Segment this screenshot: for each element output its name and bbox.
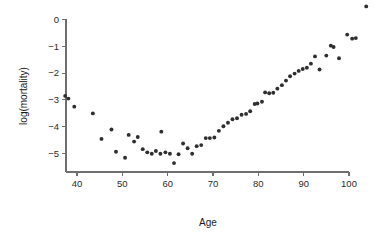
data-point (313, 54, 317, 58)
data-point (163, 150, 167, 154)
data-point (255, 101, 259, 105)
data-point (132, 140, 136, 144)
data-point (364, 4, 368, 8)
y-tick-label: −5 (48, 148, 59, 159)
data-point (275, 87, 279, 91)
y-tick-label: −3 (48, 94, 59, 105)
data-point (158, 152, 162, 156)
data-point (190, 152, 194, 156)
data-points (63, 4, 368, 165)
plot-canvas: 0−1−2−3−4−5 405060708090100 Age log(mort… (0, 0, 380, 239)
data-point (248, 109, 252, 113)
data-point (263, 90, 267, 94)
data-point (280, 83, 284, 87)
scatter-plot-figure: 0−1−2−3−4−5 405060708090100 Age log(mort… (0, 0, 380, 239)
data-point (177, 152, 181, 156)
y-tick-label: 0 (54, 14, 59, 25)
data-point (354, 36, 358, 40)
data-point (226, 121, 230, 125)
x-tick-label: 80 (253, 178, 264, 189)
data-point (100, 137, 104, 141)
data-point (301, 67, 305, 71)
data-point (297, 69, 301, 73)
data-point (350, 37, 354, 41)
data-point (305, 66, 309, 70)
data-point (288, 74, 292, 78)
data-point (231, 117, 235, 121)
x-axis: 405060708090100 (66, 172, 357, 189)
data-point (318, 68, 322, 72)
y-tick-label: −2 (48, 67, 59, 78)
data-point (309, 62, 313, 66)
x-tick-label: 90 (298, 178, 309, 189)
y-tick-label: −1 (48, 41, 59, 52)
data-point (267, 91, 271, 95)
data-point (159, 130, 163, 134)
x-tick-label: 40 (72, 178, 83, 189)
data-point (150, 152, 154, 156)
data-point (110, 128, 114, 132)
data-point (63, 94, 67, 98)
x-tick-label: 70 (208, 178, 219, 189)
data-point (235, 116, 239, 120)
data-point (217, 129, 221, 133)
data-point (324, 54, 328, 58)
data-point (145, 150, 149, 154)
data-point (168, 152, 172, 156)
data-point (154, 149, 158, 153)
data-point (204, 136, 208, 140)
data-point (199, 143, 203, 147)
data-point (260, 100, 264, 104)
data-point (221, 124, 225, 128)
data-point (337, 56, 341, 60)
data-point (172, 161, 176, 165)
data-point (114, 150, 118, 154)
data-point (136, 135, 140, 139)
x-axis-title: Age (199, 217, 217, 228)
data-point (186, 146, 190, 150)
data-point (293, 72, 297, 76)
y-tick-label: −4 (48, 121, 59, 132)
data-point (284, 79, 288, 83)
data-point (244, 112, 248, 116)
data-point (72, 105, 76, 109)
data-point (181, 142, 185, 146)
x-tick-label: 50 (117, 178, 128, 189)
data-point (208, 136, 212, 140)
data-point (127, 133, 131, 137)
data-point (66, 97, 70, 101)
data-point (345, 33, 349, 37)
data-point (212, 136, 216, 140)
data-point (332, 45, 336, 49)
data-point (271, 91, 275, 95)
data-point (195, 144, 199, 148)
x-tick-label: 100 (341, 178, 357, 189)
data-point (123, 156, 127, 160)
y-axis: 0−1−2−3−4−5 (48, 14, 66, 172)
data-point (240, 113, 244, 117)
data-point (141, 147, 145, 151)
data-point (91, 111, 95, 115)
x-tick-label: 60 (162, 178, 173, 189)
y-axis-title: log(mortality) (18, 67, 29, 125)
